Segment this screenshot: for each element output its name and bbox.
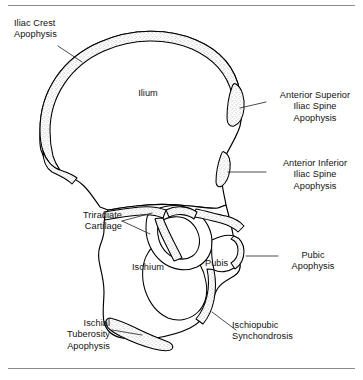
figure-container: Iliac Crest Apophysis Anterior Superior … [0,0,363,380]
label-anterior-superior-iliac-spine-apophysis: Anterior Superior Iliac Spine Apophysis [268,90,362,124]
label-iliac-crest-apophysis: Iliac Crest Apophysis [14,18,94,41]
label-ilium: Ilium [120,88,176,99]
label-anterior-inferior-iliac-spine-apophysis: Anterior Inferior Iliac Spine Apophysis [268,158,362,192]
label-ischium: Ischium [120,262,176,273]
label-ischiopubic-synchondrosis: Ischiopubic Synchondrosis [232,320,328,343]
label-ischial-tuberosity-apophysis: Ischial Tuberosity Apophysis [32,318,110,352]
label-pubic-apophysis: Pubic Apophysis [282,250,344,273]
label-triradiate-cartilage: Triradiate Cartilage [48,210,122,233]
label-pubis: Pubis [205,258,245,269]
